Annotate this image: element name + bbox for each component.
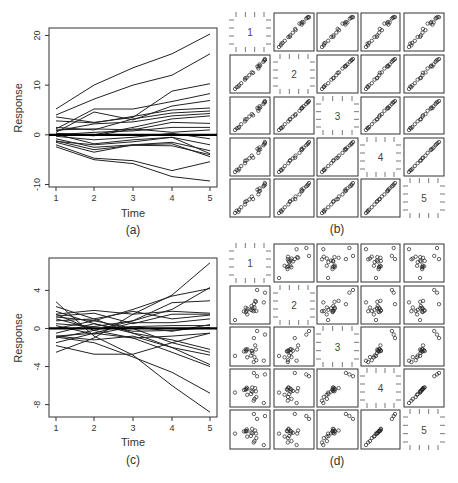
scatter-panel-2-4 — [361, 55, 400, 93]
x-axis-title-c: Time — [121, 436, 145, 448]
variable-label: 3 — [335, 111, 341, 122]
series-line — [56, 34, 210, 109]
diagonal-label-cell-4: 4 — [360, 368, 401, 408]
x-tick-label: 5 — [207, 423, 212, 433]
scatter-panel-4-2 — [274, 138, 314, 176]
panel-label-b: (b) — [330, 222, 345, 236]
scatter-matrix-b: 12345 — [229, 12, 445, 218]
scatter-panel-3-2 — [274, 97, 314, 134]
scatter-panel-3-4 — [361, 327, 400, 366]
y-tick-label: -8 — [32, 401, 42, 409]
y-tick-label: 20 — [32, 30, 42, 40]
scatter-panel-3-4 — [361, 97, 400, 134]
diagonal-label-cell-3: 3 — [316, 326, 359, 367]
panel-label-d: (d) — [330, 454, 345, 468]
figure: 12345-1001020 Time Response (a) 12345-8-… — [0, 0, 458, 483]
diagonal-label-cell-1: 1 — [229, 243, 271, 283]
y-axis-title-c: Response — [12, 313, 24, 363]
y-axis-title-a: Response — [12, 83, 24, 133]
scatter-panel-5-1 — [230, 410, 270, 449]
variable-label: 5 — [421, 193, 427, 204]
variable-label: 5 — [421, 425, 427, 436]
series-line — [56, 94, 210, 129]
variable-label: 1 — [247, 258, 253, 269]
scatter-panel-3-1 — [230, 97, 270, 134]
scatter-panel-5-1 — [230, 179, 270, 217]
scatter-panel-4-1 — [230, 138, 270, 176]
scatter-panel-3-5 — [404, 97, 444, 134]
scatter-panel-2-1 — [230, 55, 270, 93]
scatter-panel-4-3 — [317, 369, 358, 407]
variable-label: 4 — [378, 383, 384, 394]
variable-label: 2 — [291, 69, 297, 80]
scatter-panel-4-1 — [230, 369, 270, 407]
diagonal-label-cell-3: 3 — [316, 96, 359, 135]
variable-label: 1 — [247, 27, 253, 38]
panel-label-a: (a) — [126, 223, 141, 237]
scatter-panel-4-5 — [404, 369, 444, 407]
series-line — [56, 54, 210, 115]
scatter-panel-3-5 — [404, 327, 444, 366]
variable-label: 2 — [291, 300, 297, 311]
scatter-matrix-d: 12345 — [229, 243, 445, 450]
scatter-panel-3-1 — [230, 327, 270, 366]
scatter-panel-5-4 — [361, 179, 400, 217]
x-tick-label: 3 — [130, 423, 135, 433]
scatter-panel-5-3 — [317, 179, 358, 217]
diagonal-label-cell-2: 2 — [273, 54, 315, 94]
diagonal-label-cell-2: 2 — [273, 285, 315, 325]
x-tick-label: 4 — [169, 423, 174, 433]
scatter-panel-4-5 — [404, 138, 444, 176]
x-tick-label: 1 — [53, 193, 58, 203]
scatter-panel-2-3 — [317, 286, 358, 324]
scatter-panel-2-5 — [404, 286, 444, 324]
x-tick-label: 5 — [207, 193, 212, 203]
x-tick-label: 1 — [53, 423, 58, 433]
scatter-panel-2-4 — [361, 286, 400, 324]
scatter-panel-2-5 — [404, 55, 444, 93]
diagonal-label-cell-5: 5 — [403, 409, 445, 450]
scatter-panel-1-4 — [361, 13, 400, 51]
x-tick-label: 2 — [91, 193, 96, 203]
scatter-panel-1-4 — [361, 244, 400, 282]
y-tick-label: 10 — [32, 80, 42, 90]
series-line — [56, 147, 210, 181]
diagonal-label-cell-1: 1 — [229, 12, 271, 52]
y-tick-label: -10 — [32, 178, 42, 191]
series-line — [56, 337, 210, 393]
diagonal-label-cell-4: 4 — [360, 137, 401, 177]
scatter-panel-3-2 — [274, 327, 314, 366]
y-tick-label: 4 — [32, 288, 42, 293]
x-tick-label: 2 — [91, 423, 96, 433]
variable-label: 3 — [335, 342, 341, 353]
scatter-panel-2-1 — [230, 286, 270, 324]
scatter-panel-4-2 — [274, 369, 314, 407]
scatter-panel-1-2 — [274, 244, 314, 282]
scatter-panel-1-5 — [404, 13, 444, 51]
scatter-panel-2-3 — [317, 55, 358, 93]
scatter-panel-5-4 — [361, 410, 400, 449]
scatter-panel-1-3 — [317, 13, 358, 51]
y-tick-label: 0 — [32, 132, 42, 137]
panel-label-c: (c) — [126, 453, 140, 467]
scatter-panel-5-2 — [274, 410, 314, 449]
scatter-panel-5-3 — [317, 410, 358, 449]
y-tick-label: -4 — [32, 363, 42, 371]
x-axis-title-a: Time — [121, 207, 145, 219]
line-plot-c: 12345-8-404 — [32, 258, 217, 433]
line-plot-a: 12345-1001020 — [32, 28, 217, 203]
y-tick-label: 0 — [32, 326, 42, 331]
scatter-panel-1-3 — [317, 244, 358, 282]
x-tick-label: 3 — [130, 193, 135, 203]
scatter-panel-5-2 — [274, 179, 314, 217]
scatter-panel-1-5 — [404, 244, 444, 282]
variable-label: 4 — [378, 152, 384, 163]
diagonal-label-cell-5: 5 — [403, 178, 445, 218]
scatter-panel-1-2 — [274, 13, 314, 51]
scatter-panel-4-3 — [317, 138, 358, 176]
x-tick-label: 4 — [169, 193, 174, 203]
